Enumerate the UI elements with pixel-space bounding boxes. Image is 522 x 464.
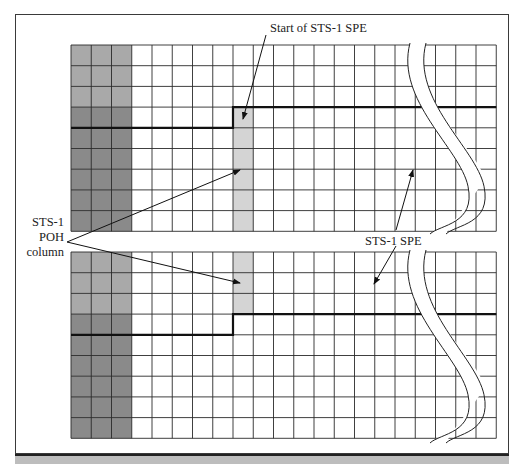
label-start-of-spe: Start of STS-1 SPE — [270, 21, 367, 36]
frame-1-grid — [71, 45, 496, 231]
overhead-cell — [71, 376, 132, 397]
overhead-cell — [71, 356, 132, 377]
overhead-cell — [71, 293, 132, 314]
poh-cell — [233, 149, 253, 170]
overhead-cell — [71, 314, 132, 335]
poh-cell — [233, 169, 253, 190]
frame-2-grid — [71, 252, 496, 438]
sts1-frame-diagram — [0, 0, 522, 464]
poh-cell — [233, 293, 253, 314]
overhead-cell — [71, 107, 132, 128]
poh-cell — [233, 211, 253, 232]
overhead-cell — [71, 418, 132, 439]
overhead-cell — [71, 66, 132, 87]
label-poh-line-2: POH — [18, 230, 64, 245]
poh-cell — [233, 128, 253, 149]
overhead-cell — [71, 169, 132, 190]
overhead-cell — [71, 397, 132, 418]
overhead-cell — [71, 190, 132, 211]
poh-cell — [233, 252, 253, 273]
label-poh-line-3: column — [18, 245, 64, 260]
overhead-cell — [71, 86, 132, 107]
overhead-cell — [71, 335, 132, 356]
poh-cell — [233, 190, 253, 211]
overhead-cell — [71, 45, 132, 66]
label-poh-column: STS-1 POH column — [18, 215, 64, 260]
label-poh-line-1: STS-1 — [18, 215, 64, 230]
label-sts1-spe: STS-1 SPE — [365, 234, 422, 249]
arrow-spe-top — [396, 170, 413, 230]
overhead-cell — [71, 149, 132, 170]
overhead-cell — [71, 128, 132, 149]
poh-cell — [233, 273, 253, 294]
overhead-cell — [71, 273, 132, 294]
